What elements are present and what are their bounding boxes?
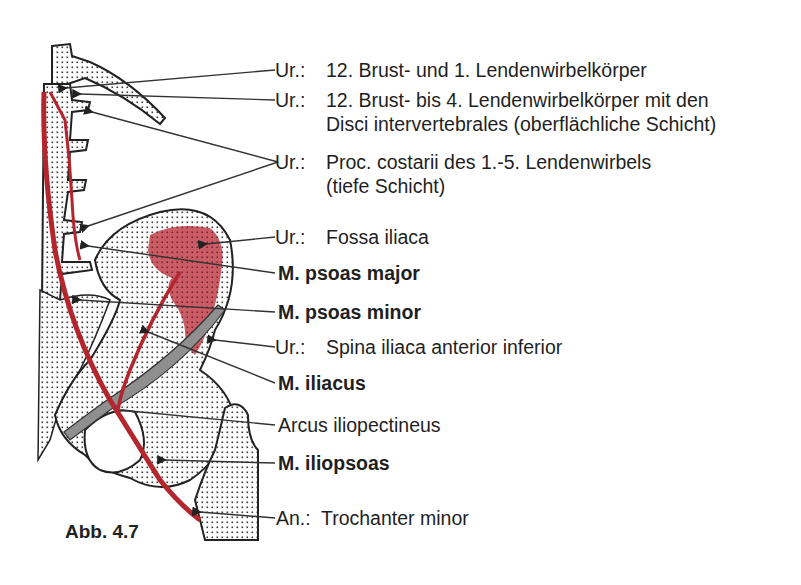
- label-origin-2: Ur.:12. Brust- bis 4. Lendenwirbelkörper…: [275, 88, 716, 136]
- label-origin-4: Ur.:Fossa iliaca: [275, 225, 429, 249]
- label-text: Spina iliaca anterior inferior: [326, 336, 562, 358]
- label-iliopsoas: M. iliopsoas: [278, 451, 390, 475]
- label-text: Fossa iliaca: [326, 226, 429, 248]
- label-text: Proc. costarii des 1.-5. Lendenwirbels: [326, 151, 651, 173]
- label-prefix: Ur.:: [275, 225, 326, 249]
- label-text: M. iliacus: [278, 372, 366, 394]
- label-prefix: Ur.:: [275, 150, 326, 174]
- label-text: 12. Brust- bis 4. Lendenwirbelkörper mit…: [326, 89, 709, 111]
- label-text: 12. Brust- und 1. Lendenwirbelkörper: [326, 59, 647, 81]
- label-text: Trochanter minor: [321, 507, 469, 529]
- label-insertion: An.:Trochanter minor: [276, 506, 469, 530]
- label-continuation: (tiefe Schicht): [275, 174, 651, 198]
- label-prefix: An.:: [276, 506, 321, 530]
- label-prefix: Ur.:: [275, 58, 326, 82]
- label-text: M. iliopsoas: [278, 452, 390, 474]
- label-continuation: Disci intervertebrales (oberflächliche S…: [275, 112, 716, 136]
- label-origin-1: Ur.:12. Brust- und 1. Lendenwirbelkörper: [275, 58, 647, 82]
- label-prefix: Ur.:: [275, 88, 326, 112]
- label-origin-3: Ur.:Proc. costarii des 1.-5. Lendenwirbe…: [275, 150, 651, 198]
- label-prefix: Ur.:: [275, 335, 326, 359]
- label-psoas-minor: M. psoas minor: [278, 300, 421, 324]
- label-arcus: Arcus iliopectineus: [278, 413, 441, 437]
- label-origin-5: Ur.:Spina iliaca anterior inferior: [275, 335, 562, 359]
- label-text: M. psoas minor: [278, 301, 421, 323]
- label-iliacus: M. iliacus: [278, 371, 366, 395]
- label-text: Arcus iliopectineus: [278, 414, 441, 436]
- label-text: M. psoas major: [278, 262, 420, 284]
- label-psoas-major: M. psoas major: [278, 261, 420, 285]
- figure-caption: Abb. 4.7: [65, 521, 139, 543]
